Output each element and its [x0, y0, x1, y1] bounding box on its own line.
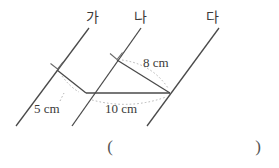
measure-5cm: 5 cm — [34, 101, 60, 116]
measure-8cm: 8 cm — [143, 55, 169, 70]
line-label-da: 다 — [206, 10, 219, 25]
geometry-figure: 가 나 다 5 cm 10 cm 8 cm ( ) — [0, 0, 279, 168]
guide-leader-5cm — [60, 93, 64, 101]
line-label-ga: 가 — [86, 10, 99, 25]
measure-10cm: 10 cm — [105, 101, 137, 116]
answer-paren-open: ( — [107, 137, 113, 156]
guide-arc-5cm — [62, 76, 79, 92]
segment-5cm — [57, 70, 86, 93]
answer-paren-close: ) — [255, 137, 261, 156]
line-label-na: 나 — [134, 10, 147, 25]
parallel-line-da — [147, 28, 219, 126]
figure-container: 가 나 다 5 cm 10 cm 8 cm ( ) — [0, 0, 279, 168]
